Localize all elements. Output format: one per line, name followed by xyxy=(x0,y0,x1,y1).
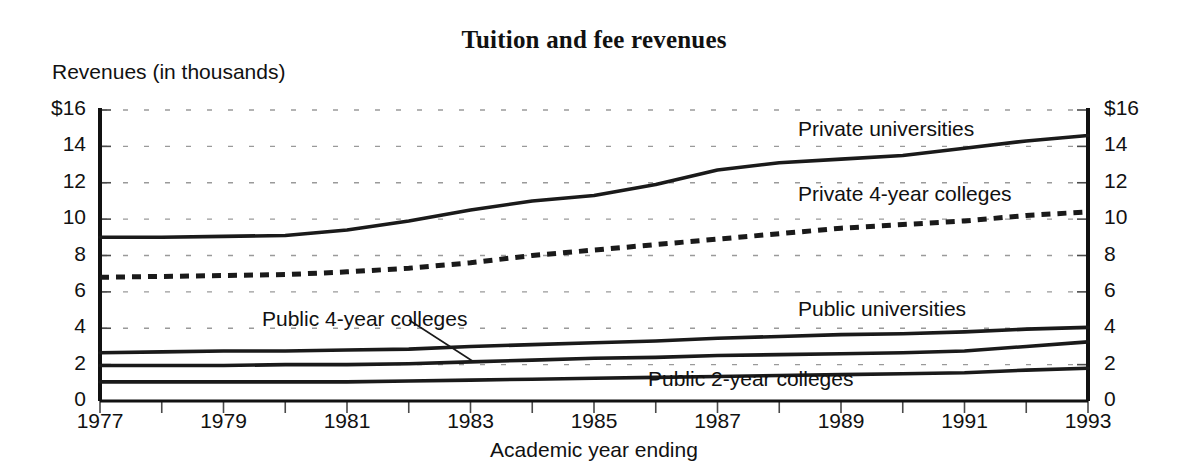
y-axis-tick-label-left: 0 xyxy=(24,387,86,411)
y-axis-tick-label-right: 10 xyxy=(1104,205,1166,229)
x-axis-tick-label: 1979 xyxy=(189,409,259,433)
x-axis-tick-label: 1993 xyxy=(1053,409,1123,433)
y-axis-tick-label-right: 4 xyxy=(1104,314,1166,338)
y-axis-tick-label-right: 8 xyxy=(1104,242,1166,266)
series-label-public-universities: Public universities xyxy=(798,297,966,321)
series-line-public-universities xyxy=(100,327,1088,352)
x-axis-tick-label: 1981 xyxy=(312,409,382,433)
series-line-public-4-year-colleges xyxy=(100,342,1088,366)
x-axis-tick-label: 1989 xyxy=(806,409,876,433)
chart-figure: Tuition and fee revenues Revenues (in th… xyxy=(0,0,1188,471)
y-axis-tick-label-right: 14 xyxy=(1104,132,1166,156)
x-axis-tick-label: 1977 xyxy=(65,409,135,433)
y-axis-tick-label-left: 10 xyxy=(24,205,86,229)
y-axis-tick-label-right: 2 xyxy=(1104,351,1166,375)
y-axis-tick-label-left: 2 xyxy=(24,351,86,375)
plot-area xyxy=(0,0,1188,471)
y-axis-tick-label-left: 4 xyxy=(24,314,86,338)
y-axis-tick-label-right: 0 xyxy=(1104,387,1166,411)
x-axis-tick-label: 1983 xyxy=(436,409,506,433)
data-series xyxy=(100,135,1088,381)
series-label-public-4-year-colleges: Public 4-year colleges xyxy=(262,307,467,331)
y-axis-tick-label-right: 12 xyxy=(1104,169,1166,193)
x-axis-tick-label: 1991 xyxy=(930,409,1000,433)
axis-ticks xyxy=(100,110,1088,413)
y-axis-tick-label-left: 12 xyxy=(24,169,86,193)
y-axis-tick-label-left: $16 xyxy=(24,96,86,120)
y-axis-tick-label-left: 8 xyxy=(24,242,86,266)
x-axis-tick-label: 1987 xyxy=(683,409,753,433)
y-axis-tick-label-right: $16 xyxy=(1104,96,1166,120)
x-axis-title: Academic year ending xyxy=(0,438,1188,462)
series-label-private-universities: Private universities xyxy=(798,117,974,141)
series-line-private-4-year-colleges xyxy=(100,212,1088,277)
series-line-public-2-year-colleges xyxy=(100,368,1088,382)
series-label-private-4-year-colleges: Private 4-year colleges xyxy=(798,182,1012,206)
series-label-public-2-year-colleges: Public 2-year colleges xyxy=(648,367,853,391)
y-axis-tick-label-left: 14 xyxy=(24,132,86,156)
y-axis-tick-label-left: 6 xyxy=(24,278,86,302)
y-axis-tick-label-right: 6 xyxy=(1104,278,1166,302)
x-axis-tick-label: 1985 xyxy=(559,409,629,433)
